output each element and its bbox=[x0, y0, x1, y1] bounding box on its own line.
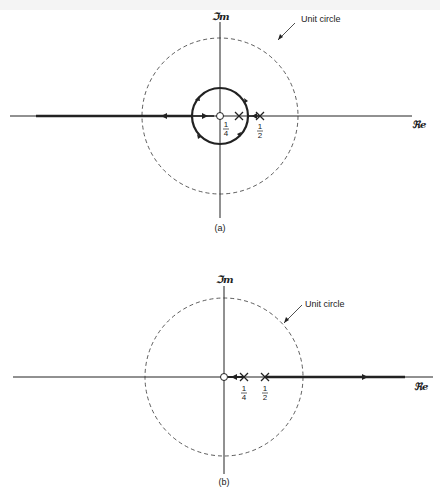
real-axis-label: ℜe bbox=[412, 119, 426, 130]
svg-text:1: 1 bbox=[263, 384, 268, 393]
imag-axis-label: ℑm bbox=[216, 274, 234, 285]
locus-arrow-right-icon bbox=[362, 374, 368, 380]
pointer-arrowhead-icon bbox=[284, 317, 289, 323]
svg-text:2: 2 bbox=[263, 393, 268, 402]
locus-arrow-left-icon bbox=[252, 113, 257, 119]
imag-axis-label: ℑm bbox=[212, 11, 230, 22]
figure-caption: (b) bbox=[219, 477, 230, 487]
pole-label-quarter: 1 4 bbox=[241, 384, 247, 402]
locus-arrow-left-icon bbox=[231, 374, 237, 380]
figure-caption: (a) bbox=[215, 223, 226, 233]
unit-circle-label: Unit circle bbox=[301, 14, 341, 24]
figure-b: ℑm ℜe Unit circle 1 4 1 2 (b bbox=[13, 274, 433, 487]
root-locus-diagrams: ℑm ℜe Unit circle 1 bbox=[0, 0, 440, 498]
zero-marker-icon bbox=[221, 374, 228, 381]
svg-text:1: 1 bbox=[224, 120, 229, 129]
pole-label-half: 1 2 bbox=[257, 122, 263, 140]
svg-text:1: 1 bbox=[242, 384, 247, 393]
svg-text:4: 4 bbox=[242, 393, 247, 402]
pointer-arrowhead-icon bbox=[278, 34, 283, 40]
unit-circle-label: Unit circle bbox=[305, 299, 345, 309]
svg-text:4: 4 bbox=[224, 129, 229, 138]
svg-text:2: 2 bbox=[258, 131, 263, 140]
pole-label-half: 1 2 bbox=[262, 384, 268, 402]
zero-marker-icon bbox=[217, 113, 224, 120]
locus-arrow-left-icon bbox=[161, 113, 167, 119]
svg-text:1: 1 bbox=[258, 122, 263, 131]
pole-label-quarter: 1 4 bbox=[223, 120, 229, 138]
figure-a: ℑm ℜe Unit circle 1 bbox=[10, 11, 426, 233]
locus-arrow-right-icon bbox=[202, 113, 208, 119]
real-axis-label: ℜe bbox=[414, 381, 428, 392]
